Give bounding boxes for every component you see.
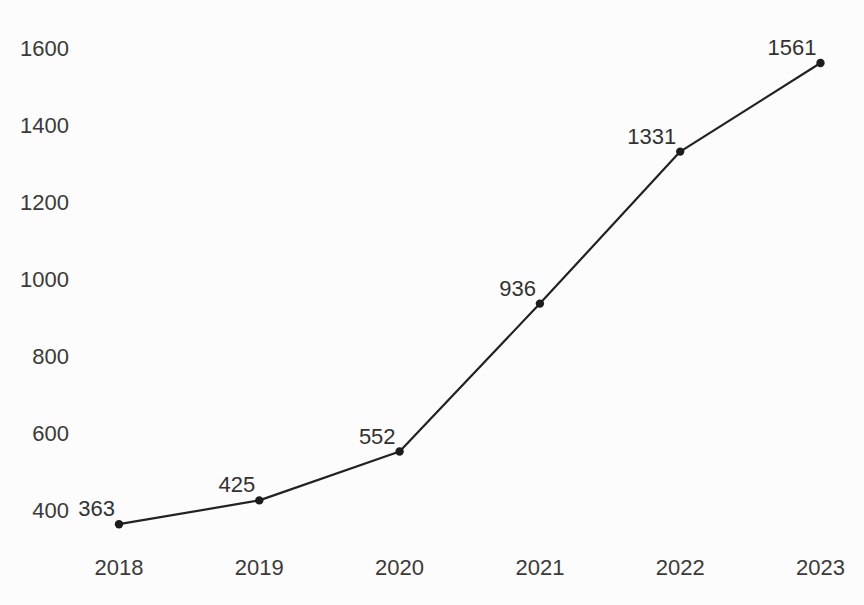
data-point-2020 — [395, 447, 403, 455]
y-axis-tick-label: 1200 — [20, 190, 69, 215]
data-point-label-2019: 425 — [219, 472, 256, 497]
x-axis-tick-label: 2019 — [235, 555, 284, 580]
y-axis-tick-label: 600 — [32, 421, 69, 446]
line-chart: 4006008001000120014001600201820192020202… — [0, 0, 864, 605]
data-point-2022 — [676, 147, 684, 155]
x-axis-tick-label: 2020 — [375, 555, 424, 580]
chart-svg: 4006008001000120014001600201820192020202… — [0, 0, 864, 605]
y-axis-tick-label: 400 — [32, 498, 69, 523]
data-point-label-2018: 363 — [78, 496, 115, 521]
x-axis-tick-label: 2022 — [656, 555, 705, 580]
x-axis-tick-label: 2018 — [95, 555, 144, 580]
y-axis-tick-label: 800 — [32, 344, 69, 369]
data-point-2018 — [115, 520, 123, 528]
trend-line — [119, 63, 821, 524]
data-point-label-2022: 1331 — [627, 124, 676, 149]
y-axis-tick-label: 1000 — [20, 267, 69, 292]
data-point-2021 — [536, 299, 544, 307]
y-axis-tick-label: 1400 — [20, 113, 69, 138]
data-point-2023 — [816, 59, 824, 67]
data-point-label-2020: 552 — [359, 424, 396, 449]
data-point-label-2021: 936 — [499, 276, 536, 301]
data-point-label-2023: 1561 — [768, 35, 817, 60]
x-axis-tick-label: 2023 — [796, 555, 845, 580]
data-point-2019 — [255, 496, 263, 504]
x-axis-tick-label: 2021 — [515, 555, 564, 580]
y-axis-tick-label: 1600 — [20, 36, 69, 61]
